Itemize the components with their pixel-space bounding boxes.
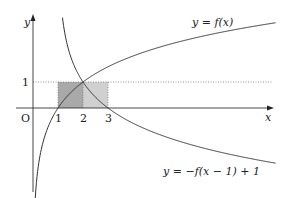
y-tick-1: 1 xyxy=(22,76,29,89)
x-tick-3: 3 xyxy=(105,112,112,125)
x-tick-1: 1 xyxy=(55,112,62,125)
y-axis-arrow-icon xyxy=(31,14,36,21)
x-axis-arrow-icon xyxy=(267,106,274,111)
shaded-region-2-3 xyxy=(83,82,108,108)
x-axis-label: x xyxy=(265,111,272,124)
curve-f-label: y = f(x) xyxy=(191,16,233,29)
x-tick-2: 2 xyxy=(80,112,87,125)
shaded-region-1-2 xyxy=(58,82,83,108)
figure: y x O 1 2 3 1 y = f(x) y = −f(x − 1) + 1 xyxy=(0,0,291,198)
origin-label: O xyxy=(21,112,30,125)
curve-g-label: y = −f(x − 1) + 1 xyxy=(162,165,260,178)
y-axis-label: y xyxy=(23,16,31,29)
